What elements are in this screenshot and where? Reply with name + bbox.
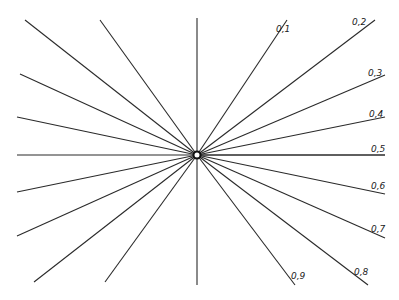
unlabeled-rays (17, 20, 197, 282)
ray-label: 0,9 (291, 271, 306, 281)
ray-label: 0,8 (354, 267, 369, 277)
ray-unlabeled (17, 155, 197, 236)
ray-unlabeled (17, 117, 197, 155)
ray-labeled (197, 155, 385, 238)
ray-label: 0,5 (371, 144, 386, 154)
labeled-rays (197, 20, 385, 285)
ray-labeled (197, 155, 368, 285)
ray-labeled (197, 155, 295, 285)
ray-labels: 0,10,20,30,40,50,60,70,80,9 (276, 17, 386, 281)
ray-label: 0,3 (368, 68, 383, 78)
ray-label: 0,4 (369, 109, 384, 119)
ray-unlabeled (34, 155, 197, 282)
ray-unlabeled (17, 155, 197, 192)
ray-label: 0,1 (276, 24, 290, 34)
ray-unlabeled (100, 20, 197, 155)
ray-label: 0,2 (352, 17, 367, 27)
ray-label: 0,6 (371, 181, 386, 191)
radial-line-diagram: 0,10,20,30,40,50,60,70,80,9 (0, 0, 399, 300)
ray-labeled (197, 20, 287, 155)
ray-unlabeled (105, 155, 197, 282)
ray-labeled (197, 155, 385, 194)
center-point (194, 152, 201, 159)
ray-labeled (197, 117, 385, 155)
ray-label: 0,7 (371, 224, 386, 234)
ray-labeled (197, 20, 375, 155)
ray-labeled (197, 75, 385, 155)
